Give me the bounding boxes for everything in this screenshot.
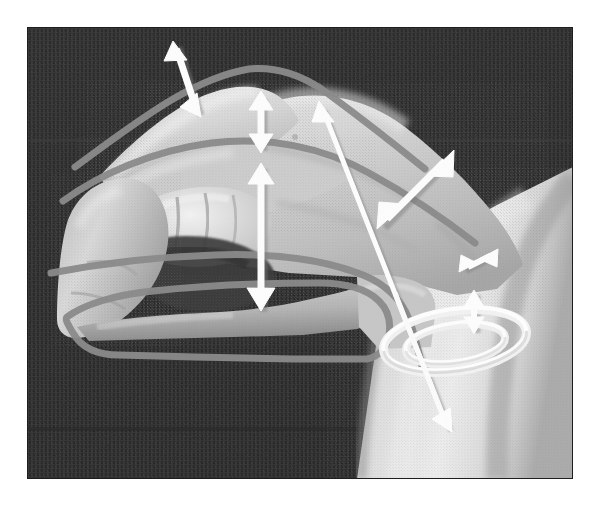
- index-finger-proximal: [87, 79, 317, 199]
- forearm-rotation-ellipse: [379, 299, 530, 380]
- axis-over-ring-segment: [395, 293, 452, 432]
- trace-segment-midpalm: [51, 255, 423, 371]
- trace-segment-distal-phalanx: [75, 68, 425, 169]
- photograph-frame: [27, 27, 573, 479]
- palm-lower-border: [67, 275, 397, 347]
- radial-deviation-range-arrow: [377, 150, 454, 229]
- photo-border: [27, 27, 573, 479]
- wrist-small-range-arrow: [459, 249, 498, 272]
- annotation-shadows: [179, 47, 498, 431]
- hand-photograph-content: [51, 79, 573, 479]
- wrist-flexion-axis-arrow: [312, 101, 452, 432]
- metacarpophalangeal-range-arrow: [247, 163, 275, 311]
- hand-dorsum: [147, 82, 547, 312]
- hand-silhouette-trace: [51, 68, 475, 371]
- annotation-layer: [164, 41, 530, 432]
- trace-segment-hypothenar: [66, 283, 389, 359]
- background-fabric: [27, 27, 573, 479]
- finger-palm-shadow-gap: [139, 236, 276, 312]
- proximal-interphalangeal-range-arrow: [249, 91, 273, 153]
- pronation-supination-range-arrow: [464, 290, 484, 334]
- curled-fingertips: [137, 187, 271, 267]
- trace-segment-dorsum: [63, 141, 475, 243]
- annotated-hand-photograph: [27, 27, 573, 479]
- wrist: [357, 275, 435, 349]
- thumb: [51, 172, 181, 347]
- distal-interphalangeal-range-arrow: [164, 41, 201, 117]
- middle-phalanx-band: [77, 137, 377, 232]
- figure-root: Grayscale photograph of a hand held in a…: [0, 0, 593, 509]
- dorsal-shading: [267, 134, 487, 279]
- photo-grain-overlay: [27, 27, 573, 479]
- forearm: [327, 167, 573, 479]
